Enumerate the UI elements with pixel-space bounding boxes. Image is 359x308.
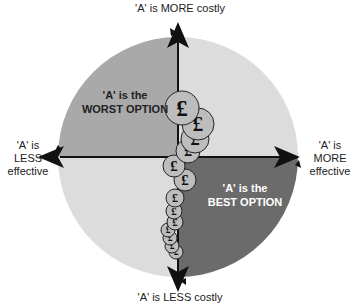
best-option-line1: 'A' is the	[195, 181, 295, 195]
worst-option-line1: 'A' is the	[70, 88, 180, 102]
label-less-effective-line2: LESS	[0, 152, 56, 165]
label-less-costly: 'A' is LESS costly	[100, 291, 260, 304]
best-option-line2: BEST OPTION	[195, 195, 295, 209]
label-more-effective-line3: effective	[301, 165, 359, 178]
pound-symbol: £	[170, 158, 177, 174]
pound-coin-icon: £	[166, 189, 184, 207]
worst-option-label: 'A' is the WORST OPTION	[70, 88, 180, 116]
label-more-costly: 'A' is MORE costly	[100, 2, 260, 15]
label-less-effective: 'A' is LESS effective	[0, 139, 56, 178]
pound-symbol: £	[172, 191, 178, 205]
worst-option-line2: WORST OPTION	[70, 102, 180, 116]
label-less-effective-line1: 'A' is	[0, 139, 56, 152]
label-more-effective: 'A' is MORE effective	[301, 139, 359, 178]
pound-symbol: £	[181, 172, 188, 188]
quadrant-bottom-left	[58, 157, 178, 277]
label-more-effective-line2: MORE	[301, 152, 359, 165]
quadrant-best	[178, 157, 298, 277]
best-option-label: 'A' is the BEST OPTION	[195, 181, 295, 209]
label-more-effective-line1: 'A' is	[301, 139, 359, 152]
label-less-effective-line3: effective	[0, 165, 56, 178]
